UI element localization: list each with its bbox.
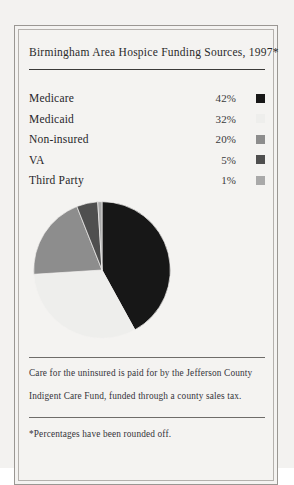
legend-item-percent: 20% bbox=[198, 133, 236, 145]
legend-item-non-insured: Non-insured 20% bbox=[29, 129, 265, 150]
page-title: Birmingham Area Hospice Funding Sources,… bbox=[29, 40, 265, 64]
title-divider bbox=[29, 69, 265, 70]
legend-color-swatch bbox=[256, 155, 265, 164]
legend-item-va: VA 5% bbox=[29, 150, 265, 171]
legend-item-percent: 42% bbox=[198, 92, 236, 104]
pie-chart-container bbox=[29, 199, 265, 349]
legend-item-percent: 32% bbox=[198, 113, 236, 125]
chart-legend: Medicare 42% Medicaid 32% Non-insured 20… bbox=[29, 88, 265, 191]
legend-item-label: VA bbox=[29, 154, 198, 166]
card-content: Birmingham Area Hospice Funding Sources,… bbox=[29, 40, 265, 439]
legend-color-swatch bbox=[256, 135, 265, 144]
legend-item-label: Medicaid bbox=[29, 113, 198, 125]
legend-item-medicaid: Medicaid 32% bbox=[29, 109, 265, 130]
legend-item-percent: 1% bbox=[198, 174, 236, 186]
pie-chart bbox=[33, 201, 171, 339]
caption-line-2: Indigent Care Fund, funded through a cou… bbox=[29, 383, 265, 406]
legend-item-medicare: Medicare 42% bbox=[29, 88, 265, 109]
legend-item-percent: 5% bbox=[198, 154, 236, 166]
footnote: *Percentages have been rounded off. bbox=[29, 418, 265, 439]
caption-line-1: Care for the uninsured is paid for by th… bbox=[29, 360, 265, 383]
legend-color-swatch bbox=[256, 94, 265, 103]
legend-color-swatch bbox=[256, 114, 265, 123]
caption-block: Care for the uninsured is paid for by th… bbox=[29, 357, 265, 440]
legend-color-swatch bbox=[256, 176, 265, 185]
legend-item-label: Non-insured bbox=[29, 133, 198, 145]
legend-item-label: Third Party bbox=[29, 174, 198, 186]
legend-item-label: Medicare bbox=[29, 92, 198, 104]
caption-divider-top bbox=[29, 357, 265, 358]
legend-item-third-party: Third Party 1% bbox=[29, 170, 265, 191]
